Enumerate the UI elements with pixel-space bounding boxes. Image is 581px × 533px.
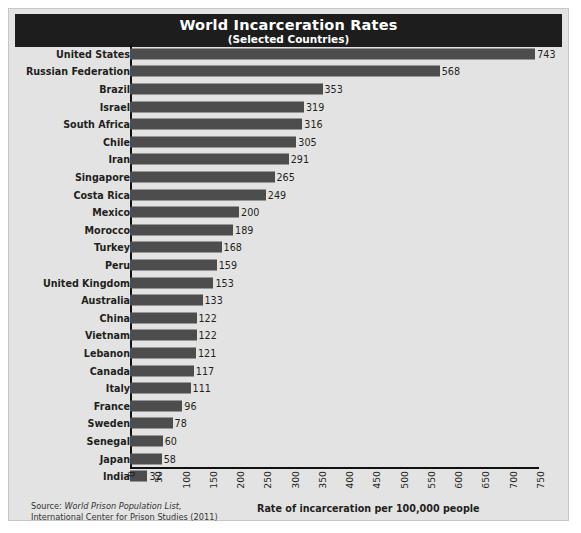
- bar-value-label: 111: [191, 383, 211, 394]
- category-label: Costa Rica: [73, 189, 130, 200]
- bar-row: Israel319: [9, 98, 570, 116]
- bar: [130, 119, 302, 130]
- bar-value-label: 58: [162, 453, 176, 464]
- category-label: Peru: [105, 259, 130, 270]
- bar-row: Brazil353: [9, 80, 570, 98]
- category-label: China: [100, 312, 130, 323]
- category-label: Singapore: [75, 171, 130, 182]
- x-tick-label: 350: [317, 471, 328, 489]
- bar-value-label: 122: [197, 330, 217, 341]
- bar-value-label: 353: [323, 83, 343, 94]
- bar: [130, 83, 323, 94]
- bar: [130, 224, 233, 235]
- bar-row: Australia133: [9, 291, 570, 309]
- x-tick-label: 750: [535, 471, 546, 489]
- bar-value-label: 153: [213, 277, 233, 288]
- bar-row: Costa Rica249: [9, 186, 570, 204]
- bar-value-label: 121: [196, 347, 216, 358]
- bar-value-label: 249: [266, 189, 286, 200]
- bar: [130, 242, 222, 253]
- bar-row: Chile305: [9, 133, 570, 151]
- bar-row: Vietnam122: [9, 327, 570, 345]
- x-tick-label: 150: [208, 471, 219, 489]
- bar: [130, 207, 239, 218]
- bar: [130, 189, 266, 200]
- category-label: Australia: [81, 295, 130, 306]
- source-org: International Center for Prison Studies …: [31, 512, 218, 522]
- bar: [130, 453, 162, 464]
- bar-value-label: 319: [304, 101, 324, 112]
- bar: [130, 400, 182, 411]
- plot-area: United States743Russian Federation568Bra…: [9, 42, 570, 467]
- bar-row: Sweden78: [9, 415, 570, 433]
- bar-row: Japan58: [9, 450, 570, 468]
- page-title: World Incarceration Rates: [179, 17, 397, 33]
- x-axis-line: [130, 467, 539, 469]
- bar-row: Morocco189: [9, 221, 570, 239]
- bar: [130, 136, 296, 147]
- bar-row: Peru159: [9, 256, 570, 274]
- bar-row: South Africa316: [9, 115, 570, 133]
- bar-value-label: 291: [289, 154, 309, 165]
- bar-value-label: 305: [296, 136, 316, 147]
- bar-row: China122: [9, 309, 570, 327]
- bar-row: United States743: [9, 45, 570, 63]
- category-label: South Africa: [63, 119, 130, 130]
- bar: [130, 330, 197, 341]
- category-label: Vietnam: [85, 330, 130, 341]
- bar: [130, 259, 217, 270]
- category-label: Senegal: [87, 435, 130, 446]
- bar: [130, 66, 440, 77]
- bar: [130, 418, 173, 429]
- bar: [130, 365, 194, 376]
- bar-value-label: 159: [217, 259, 237, 270]
- bar-row: Senegal60: [9, 432, 570, 450]
- category-label: Morocco: [85, 224, 130, 235]
- x-tick-label: 650: [480, 471, 491, 489]
- bar-row: Iran291: [9, 151, 570, 169]
- bar-value-label: 133: [203, 295, 223, 306]
- category-label: Turkey: [94, 242, 130, 253]
- x-tick-label: 250: [262, 471, 273, 489]
- x-tick-label: 100: [181, 471, 192, 489]
- chart-footer: Source: World Prison Population List, In…: [9, 501, 570, 529]
- bar: [130, 171, 275, 182]
- bar-value-label: 117: [194, 365, 214, 376]
- bar-value-label: 60: [163, 435, 177, 446]
- x-tick-label: 500: [399, 471, 410, 489]
- category-label: Russian Federation: [26, 66, 130, 77]
- bar-value-label: 168: [222, 242, 242, 253]
- bar-value-label: 189: [233, 224, 253, 235]
- category-label: Italy: [106, 383, 130, 394]
- category-label: Lebanon: [84, 347, 130, 358]
- category-label: Canada: [90, 365, 130, 376]
- category-label: France: [94, 400, 130, 411]
- bar-value-label: 265: [275, 171, 295, 182]
- category-label: Sweden: [88, 418, 130, 429]
- source-note: Source: World Prison Population List, In…: [31, 501, 218, 522]
- bar-row: France96: [9, 397, 570, 415]
- category-label: Brazil: [99, 83, 130, 94]
- bar: [130, 347, 196, 358]
- x-axis-title: Rate of incarceration per 100,000 people: [257, 503, 480, 514]
- source-prefix: Source:: [31, 501, 62, 511]
- bar-value-label: 743: [535, 48, 555, 59]
- category-label: Iran: [108, 154, 130, 165]
- bar-value-label: 122: [197, 312, 217, 323]
- bar-row: Lebanon121: [9, 344, 570, 362]
- bar-row: Italy111: [9, 379, 570, 397]
- bar-value-label: 200: [239, 207, 259, 218]
- bar: [130, 48, 535, 59]
- bar: [130, 277, 213, 288]
- bar-row: Russian Federation568: [9, 63, 570, 81]
- x-axis: 0501001502002503003504004505005506006507…: [9, 467, 570, 469]
- bar: [130, 312, 197, 323]
- category-label: Chile: [103, 136, 130, 147]
- x-tick-label: 450: [371, 471, 382, 489]
- bar-value-label: 568: [440, 66, 460, 77]
- category-label: United States: [56, 48, 130, 59]
- bar: [130, 154, 289, 165]
- category-label: Japan: [100, 453, 130, 464]
- category-label: United Kingdom: [43, 277, 130, 288]
- x-tick-label: 550: [426, 471, 437, 489]
